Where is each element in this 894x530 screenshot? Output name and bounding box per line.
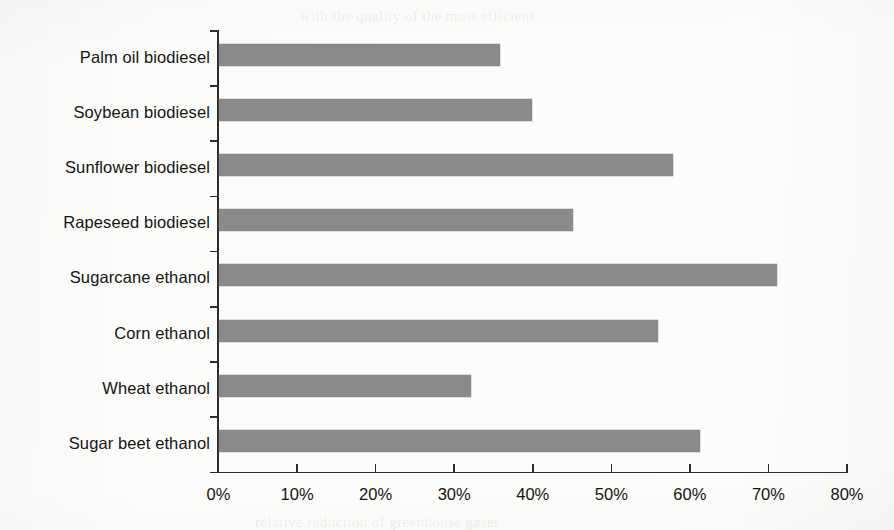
- y-axis-tick: [210, 30, 218, 32]
- x-axis-line: [217, 472, 848, 474]
- x-axis-tick-label: 60%: [673, 486, 706, 503]
- x-axis-tick-label: 40%: [516, 486, 549, 503]
- page-bleedthrough-text: relative reduction of greenhouse gases: [255, 514, 500, 530]
- bar: [219, 154, 673, 176]
- bar: [219, 44, 500, 66]
- x-axis-tick: [689, 464, 691, 472]
- y-axis-tick: [210, 361, 218, 363]
- y-axis-tick: [210, 416, 218, 418]
- x-axis-tick: [611, 464, 613, 472]
- x-axis-tick: [768, 464, 770, 472]
- x-axis-tick: [453, 464, 455, 472]
- y-axis-tick: [210, 306, 218, 308]
- category-label: Soybean biodiesel: [73, 104, 210, 121]
- y-axis-tick: [210, 140, 218, 142]
- x-axis-tick-label: 20%: [359, 486, 392, 503]
- bar-chart: Palm oil biodieselSoybean biodieselSunfl…: [0, 0, 894, 530]
- y-axis-tick: [210, 251, 218, 253]
- x-axis-tick: [846, 464, 848, 472]
- bar: [219, 99, 532, 121]
- bar: [219, 209, 573, 231]
- y-axis-tick: [210, 472, 218, 474]
- x-axis-tick-label: 70%: [752, 486, 785, 503]
- category-label: Rapeseed biodiesel: [63, 214, 210, 231]
- x-axis-tick-label: 10%: [281, 486, 314, 503]
- x-axis-tick-label: 80%: [830, 486, 863, 503]
- page-bleedthrough-text: with the quality of the most efficient: [300, 8, 534, 25]
- category-label: Sunflower biodiesel: [65, 159, 210, 176]
- y-axis-tick: [210, 85, 218, 87]
- category-label: Wheat ethanol: [102, 380, 210, 397]
- scanned-page: Palm oil biodieselSoybean biodieselSunfl…: [0, 0, 894, 530]
- x-axis-tick: [532, 464, 534, 472]
- x-axis-tick-label: 50%: [595, 486, 628, 503]
- x-axis-tick-label: 30%: [438, 486, 471, 503]
- x-axis-tick: [218, 464, 220, 472]
- bar: [219, 375, 472, 397]
- x-axis-tick: [375, 464, 377, 472]
- bar: [219, 320, 658, 342]
- bar: [219, 430, 701, 452]
- y-axis-line: [217, 30, 219, 473]
- category-label: Sugarcane ethanol: [70, 269, 210, 286]
- bar: [219, 264, 778, 286]
- x-axis-tick-label: 0%: [207, 486, 231, 503]
- category-label: Corn ethanol: [114, 325, 210, 342]
- category-label: Palm oil biodiesel: [80, 49, 210, 66]
- y-axis-tick: [210, 196, 218, 198]
- x-axis-tick: [296, 464, 298, 472]
- category-label: Sugar beet ethanol: [69, 435, 210, 452]
